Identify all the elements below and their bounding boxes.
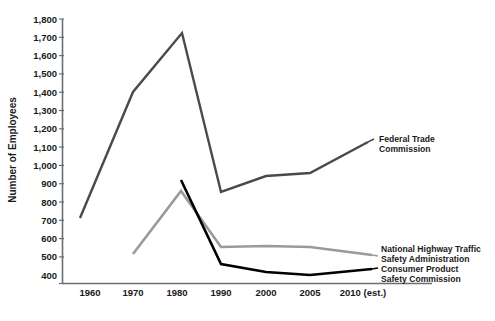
leader-line-nhtsa [372,255,378,256]
line-chart: Number of Employees 1,800 1,700 1,600 1,… [0,0,495,321]
y-tick-label: 1,000 [33,160,57,171]
x-tick-label: 1960 [79,287,100,298]
series-label-federal-trade-commission: Federal Trade Commission [379,134,435,154]
x-tick-label: 2000 [255,287,276,298]
y-tick-label: 1,600 [33,50,57,61]
series-line-consumer-product-safety-commission [181,180,372,275]
series-label-line: National Highway Traffic [381,244,481,254]
y-tick-label: 1,100 [33,142,57,153]
y-tick-label: 1,700 [33,32,57,43]
y-tick-label: 1,500 [33,68,57,79]
y-tick-label: 1,800 [33,14,57,25]
y-tick-label: 1,200 [33,123,57,134]
series-label-national-highway-traffic-safety-administration: National Highway Traffic Safety Administ… [381,244,481,264]
x-tick-label: 1970 [122,287,143,298]
y-axis-ticks: 1,800 1,700 1,600 1,500 1,400 1,300 1,20… [33,14,57,281]
y-tick-label: 600 [41,233,57,244]
x-tick-label: 2005 [299,287,321,298]
series-label-line: Safety Administration [381,254,470,264]
leader-line-ftc [368,139,374,142]
x-tick-label: 1980 [166,287,187,298]
y-tick-label: 900 [41,178,57,189]
y-tick-label: 400 [41,270,57,281]
x-tick-label: 2010 (est.) [340,287,386,298]
leader-line-cpsc [372,268,378,269]
series-label-line: Safety Commission [381,274,461,284]
series-label-line: Consumer Product [381,264,458,274]
chart-svg: Number of Employees 1,800 1,700 1,600 1,… [0,0,495,321]
series-line-federal-trade-commission [80,33,368,218]
y-tick-label: 700 [41,215,57,226]
series-line-national-highway-traffic-safety-administration [133,191,372,255]
y-tick-label: 1,400 [33,87,57,98]
y-tick-label: 1,300 [33,105,57,116]
y-axis-title: Number of Employees [7,97,18,203]
x-axis-ticks: 1960 1970 1980 1990 2000 2005 2010 (est.… [79,287,386,298]
series-label-line: Federal Trade [379,134,435,144]
x-tick-label: 1990 [210,287,231,298]
y-tick-label: 500 [41,251,57,262]
series-label-consumer-product-safety-commission: Consumer Product Safety Commission [381,264,461,284]
series-label-line: Commission [379,144,431,154]
y-tick-label: 800 [41,197,57,208]
